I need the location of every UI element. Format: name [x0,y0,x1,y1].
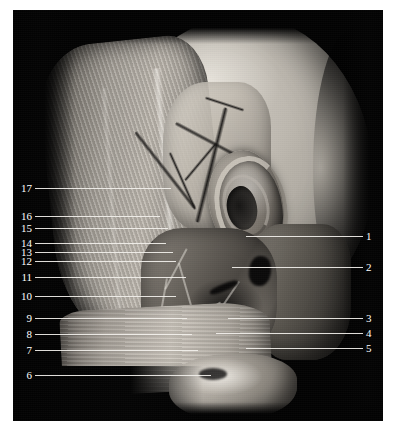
leader-line-17 [35,188,171,189]
label-number-6: 6 [13,370,32,381]
leader-line-4 [216,333,363,334]
leader-line-8 [35,334,192,335]
background-void-right [343,10,383,421]
label-number-7: 7 [13,345,32,356]
leader-line-1 [246,236,363,237]
label-number-15: 15 [13,223,32,234]
leader-line-9 [35,318,187,319]
leader-line-6 [35,375,211,376]
label-number-10: 10 [13,291,32,302]
leader-line-13 [35,252,173,253]
leader-line-11 [35,277,186,278]
leader-line-12 [35,261,176,262]
label-number-4: 4 [366,328,372,339]
leader-line-15 [35,228,168,229]
mandibular-shadow [199,368,227,380]
leader-line-14 [35,243,166,244]
label-number-9: 9 [13,313,32,324]
leader-line-3 [228,318,363,319]
leader-line-5 [246,348,363,349]
leader-line-2 [232,267,363,268]
figure-plate: 17161514131211109876 12345 [13,10,383,421]
label-number-8: 8 [13,329,32,340]
leader-line-7 [35,350,198,351]
label-number-2: 2 [366,262,372,273]
figure-root: 17161514131211109876 12345 [0,0,395,432]
label-number-3: 3 [366,313,372,324]
label-number-5: 5 [366,343,372,354]
leader-line-16 [35,216,160,217]
label-number-17: 17 [13,183,32,194]
label-number-11: 11 [13,272,32,283]
label-number-16: 16 [13,211,32,222]
label-number-1: 1 [366,231,372,242]
label-number-12: 12 [13,256,32,267]
leader-line-10 [35,296,176,297]
